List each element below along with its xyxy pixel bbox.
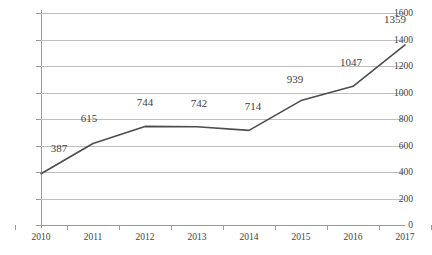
data-label-2016: 1047 [340, 56, 362, 68]
data-label-2012: 744 [137, 96, 154, 108]
data-label-2011: 615 [81, 112, 98, 124]
data-label-2010: 387 [51, 142, 68, 154]
data-label-2013: 742 [191, 97, 208, 109]
data-label-2015: 939 [287, 73, 304, 85]
data-label-2014: 714 [245, 100, 262, 112]
data-label-2017: 1359 [384, 13, 406, 25]
